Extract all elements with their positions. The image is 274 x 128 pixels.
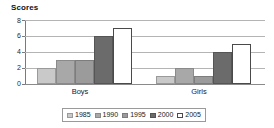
legend-swatch-1995-icon [122,113,128,118]
legend-swatch-2000-icon [150,113,156,118]
legend-swatch-1985-icon [67,113,73,118]
bar-boys-1990 [56,60,75,84]
bar-chart: Scores 8 6 4 2 0 Boys Girls 198 [0,0,274,128]
bar-girls-1995 [194,76,213,84]
legend-item-1990: 1990 [95,111,119,119]
legend-swatch-2005-icon [177,113,183,118]
gridline-0-baseline [25,84,265,85]
legend-item-2000: 2000 [150,111,174,119]
y-axis-tick-label-4: 4 [5,48,21,55]
bar-girls-2000 [213,52,232,84]
legend-label-1985: 1985 [75,111,91,119]
bar-boys-1985 [37,68,56,84]
y-axis-tick-label-2: 2 [5,64,21,71]
chart-legend: 1985 1990 1995 2000 2005 [62,108,206,122]
bar-girls-1990 [175,68,194,84]
legend-label-1995: 1995 [130,111,146,119]
chart-title: Scores [11,3,38,13]
category-label-girls: Girls [174,87,224,96]
category-label-boys: Boys [55,87,105,96]
plot-area [25,20,265,84]
legend-label-2005: 2005 [185,111,201,119]
y-axis-tick-label-0: 0 [5,80,21,87]
bar-boys-1995 [75,60,94,84]
legend-item-1995: 1995 [122,111,146,119]
bar-boys-2000 [94,36,113,84]
gridline-8 [25,20,265,21]
legend-label-2000: 2000 [158,111,174,119]
bar-boys-2005 [113,28,132,84]
gridline-6 [25,36,265,37]
bar-girls-1985 [156,76,175,84]
legend-label-1990: 1990 [103,111,119,119]
legend-swatch-1990-icon [95,113,101,118]
bar-girls-2005 [232,44,251,84]
legend-item-2005: 2005 [177,111,201,119]
y-axis-tick-label-8: 8 [5,17,21,24]
legend-item-1985: 1985 [67,111,91,119]
y-axis-tick-label-6: 6 [5,32,21,39]
